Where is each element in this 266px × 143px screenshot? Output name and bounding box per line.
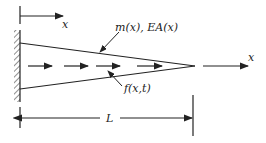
- right-x-axis: x: [203, 51, 255, 66]
- force-label: f(x,t): [123, 82, 151, 95]
- properties-annotation: m(x), EA(x): [100, 21, 178, 52]
- top-x-axis: x: [20, 6, 69, 31]
- tapered-bar-diagram: x x m(x), EA(x) f(x,t) L: [0, 0, 266, 143]
- properties-label: m(x), EA(x): [115, 21, 178, 34]
- fixed-wall: [14, 30, 20, 102]
- length-label: L: [105, 112, 113, 125]
- length-dimension: L: [20, 95, 193, 136]
- top-axis-label: x: [62, 18, 69, 31]
- right-axis-label: x: [248, 51, 255, 64]
